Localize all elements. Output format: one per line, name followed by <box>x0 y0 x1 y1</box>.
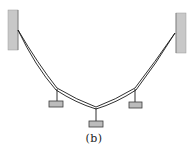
right-wall <box>176 13 186 53</box>
cables <box>18 30 175 109</box>
hangers <box>57 89 135 121</box>
cable-diagram <box>0 0 188 151</box>
center-block <box>89 121 103 127</box>
left-wall <box>8 10 18 50</box>
cable-lower <box>18 30 175 109</box>
walls <box>8 10 186 53</box>
figure-caption: (b) <box>0 132 188 145</box>
left-block <box>49 101 63 107</box>
blocks <box>49 101 142 127</box>
right-block <box>129 102 142 108</box>
